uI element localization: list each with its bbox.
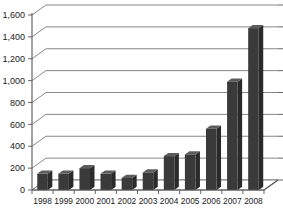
x-axis-tick-label: 2008 bbox=[244, 196, 263, 206]
value-axis bbox=[28, 13, 32, 190]
x-axis-tick-label: 2005 bbox=[181, 196, 200, 206]
y-axis-tick-label: 1,200 bbox=[2, 54, 25, 64]
y-axis-tick-label: 1,000 bbox=[2, 76, 25, 86]
x-axis-tick-label: 2001 bbox=[96, 196, 115, 206]
x-axis-tick-label: 2003 bbox=[139, 196, 158, 206]
bar bbox=[143, 169, 158, 190]
bar bbox=[37, 170, 52, 190]
x-axis-tick-label: 1998 bbox=[33, 196, 52, 206]
bar bbox=[248, 25, 263, 190]
y-axis-tick-label: 0 bbox=[20, 185, 25, 195]
y-axis-tick-label: 400 bbox=[10, 141, 25, 151]
bar bbox=[185, 151, 200, 190]
bar bbox=[164, 153, 179, 190]
chart-canvas: 02004006008001,0001,2001,4001,600 199819… bbox=[0, 0, 283, 220]
bar bbox=[227, 79, 242, 190]
y-axis-tick-label: 200 bbox=[10, 163, 25, 173]
bar bbox=[206, 126, 221, 190]
x-axis-tick-label: 2004 bbox=[160, 196, 179, 206]
bar bbox=[122, 175, 137, 190]
bar bbox=[101, 170, 116, 190]
gridlines-group bbox=[32, 5, 283, 190]
x-axis-tick-label: 2006 bbox=[202, 196, 221, 206]
bar bbox=[79, 165, 94, 190]
x-axis-tick-label: 2007 bbox=[223, 196, 242, 206]
x-axis-tick-label: 1999 bbox=[54, 196, 73, 206]
x-axis-tick-label: 2000 bbox=[75, 196, 94, 206]
y-axis-tick-label: 1,400 bbox=[2, 32, 25, 42]
year-axis-labels: 1998199920002001200220032004200520062007… bbox=[33, 196, 263, 206]
bar bbox=[58, 170, 73, 190]
bars-group bbox=[37, 25, 263, 190]
x-axis-tick-label: 2002 bbox=[118, 196, 137, 206]
y-axis-tick-label: 600 bbox=[10, 120, 25, 130]
value-axis-labels: 02004006008001,0001,2001,4001,600 bbox=[2, 10, 25, 195]
bar-chart: 02004006008001,0001,2001,4001,600 199819… bbox=[0, 0, 283, 220]
y-axis-tick-label: 800 bbox=[10, 98, 25, 108]
y-axis-tick-label: 1,600 bbox=[2, 10, 25, 20]
